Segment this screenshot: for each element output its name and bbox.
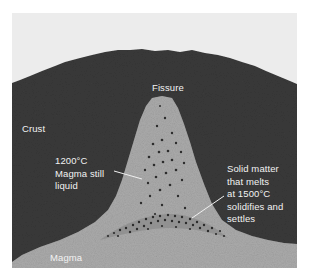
diagram-illustration	[0, 0, 310, 279]
label-solid-line4: solidifies and	[227, 201, 283, 214]
label-crust: Crust	[22, 123, 45, 136]
label-solid-matter: Solid matter that melts at 1500°C solidi…	[227, 163, 283, 226]
label-fissure: Fissure	[152, 82, 184, 95]
label-solid-line1: Solid matter	[227, 163, 283, 176]
label-liquid-line1: Magma still	[55, 168, 104, 181]
label-liquid-magma: 1200°C Magma still liquid	[55, 155, 104, 193]
label-solid-line3: at 1500°C	[227, 188, 283, 201]
label-solid-line2: that melts	[227, 176, 283, 189]
label-magma: Magma	[50, 252, 82, 265]
label-liquid-temp: 1200°C	[55, 155, 104, 168]
label-liquid-line2: liquid	[55, 180, 104, 193]
label-solid-line5: settles	[227, 213, 283, 226]
